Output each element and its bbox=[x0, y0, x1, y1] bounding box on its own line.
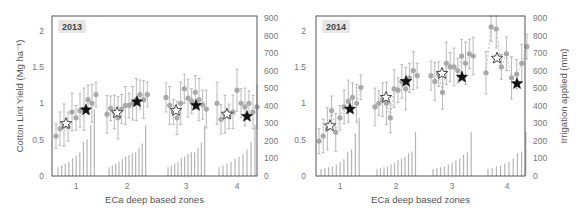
svg-text:600: 600 bbox=[264, 66, 278, 76]
svg-text:900: 900 bbox=[264, 13, 278, 23]
y-axis-label-left: Cotton Lint Yield (Mg ha⁻¹) bbox=[14, 40, 25, 153]
svg-text:900: 900 bbox=[533, 13, 547, 23]
chart-panel-2014: 201400.511.52010020030040050060070080090… bbox=[294, 13, 547, 205]
svg-text:800: 800 bbox=[533, 31, 547, 41]
svg-text:1.5: 1.5 bbox=[294, 62, 306, 72]
year-tag: 2013 bbox=[58, 20, 86, 33]
irrigation-bars bbox=[58, 109, 255, 176]
svg-text:0: 0 bbox=[301, 171, 306, 181]
irrigation-bars bbox=[321, 118, 526, 176]
svg-text:0.5: 0.5 bbox=[32, 135, 44, 145]
year-tag: 2014 bbox=[322, 20, 350, 33]
svg-text:1: 1 bbox=[338, 181, 343, 191]
svg-text:0: 0 bbox=[39, 171, 44, 181]
filled-star-icon bbox=[80, 104, 91, 115]
svg-text:1.5: 1.5 bbox=[32, 62, 44, 72]
svg-text:2014: 2014 bbox=[326, 22, 346, 32]
y-axis-label-right: Irrigation applied (mm) bbox=[558, 48, 569, 143]
chart-panel-2013: 201300.511.52010020030040050060070080090… bbox=[32, 13, 278, 205]
svg-text:2013: 2013 bbox=[62, 22, 82, 32]
filled-star-icon bbox=[344, 103, 355, 114]
svg-text:0: 0 bbox=[533, 171, 538, 181]
svg-text:400: 400 bbox=[264, 101, 278, 111]
figure: Cotton Lint Yield (Mg ha⁻¹) Irrigation a… bbox=[0, 0, 583, 213]
svg-text:0: 0 bbox=[264, 171, 269, 181]
plot-frame bbox=[316, 16, 525, 176]
svg-text:700: 700 bbox=[533, 48, 547, 58]
plot-frame bbox=[52, 16, 257, 176]
svg-text:200: 200 bbox=[533, 136, 547, 146]
svg-text:100: 100 bbox=[533, 153, 547, 163]
svg-text:500: 500 bbox=[533, 83, 547, 93]
svg-text:200: 200 bbox=[264, 136, 278, 146]
x-axis-label: ECa deep based zones bbox=[371, 194, 470, 205]
svg-text:2: 2 bbox=[39, 26, 44, 36]
svg-text:500: 500 bbox=[264, 83, 278, 93]
svg-text:1: 1 bbox=[74, 181, 79, 191]
x-axis-label: ECa deep based zones bbox=[105, 194, 204, 205]
svg-text:1: 1 bbox=[39, 98, 44, 108]
treatment-stars bbox=[324, 52, 522, 130]
svg-text:3: 3 bbox=[450, 181, 455, 191]
svg-text:2: 2 bbox=[394, 181, 399, 191]
svg-text:800: 800 bbox=[264, 31, 278, 41]
svg-text:400: 400 bbox=[533, 101, 547, 111]
yield-points bbox=[316, 16, 529, 153]
svg-text:300: 300 bbox=[264, 118, 278, 128]
svg-text:300: 300 bbox=[533, 118, 547, 128]
svg-text:100: 100 bbox=[264, 153, 278, 163]
svg-text:0.5: 0.5 bbox=[294, 135, 306, 145]
svg-text:700: 700 bbox=[264, 48, 278, 58]
svg-text:2: 2 bbox=[301, 26, 306, 36]
svg-text:4: 4 bbox=[505, 181, 510, 191]
svg-text:1: 1 bbox=[301, 98, 306, 108]
svg-text:4: 4 bbox=[235, 181, 240, 191]
svg-text:2: 2 bbox=[125, 181, 130, 191]
svg-text:600: 600 bbox=[533, 66, 547, 76]
svg-text:3: 3 bbox=[184, 181, 189, 191]
